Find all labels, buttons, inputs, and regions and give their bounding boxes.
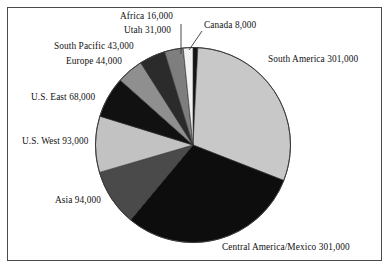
pie-label-us-west: U.S. West 93,000 bbox=[22, 137, 89, 147]
pie-label-europe: Europe 44,000 bbox=[66, 57, 122, 67]
pie-label-us-east: U.S. East 68,000 bbox=[31, 93, 95, 103]
pie-label-south-america: South America 301,000 bbox=[268, 55, 358, 65]
pie-label-canada: Canada 8,000 bbox=[204, 21, 256, 31]
pie-label-south-pacific: South Pacific 43,000 bbox=[54, 42, 134, 52]
pie-label-asia: Asia 94,000 bbox=[55, 196, 101, 206]
pie-slices-group bbox=[95, 47, 290, 242]
pie-label-utah: Utah 31,000 bbox=[124, 26, 171, 36]
pie-chart-figure: Africa 16,000 Utah 31,000 Canada 8,000 S… bbox=[0, 0, 392, 276]
pie-label-africa: Africa 16,000 bbox=[120, 12, 173, 22]
pie-label-central-america-mexico: Central America/Mexico 301,000 bbox=[222, 243, 350, 253]
